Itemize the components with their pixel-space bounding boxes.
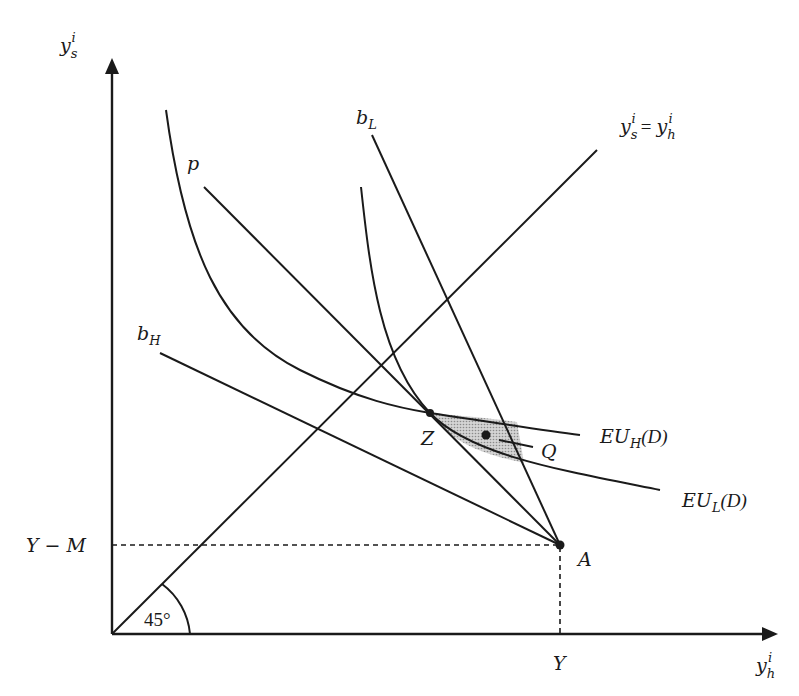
certainty-line [112, 150, 597, 634]
angle-label: 45° [144, 609, 171, 630]
b-L-label: bL [356, 106, 377, 132]
b-H-label: bH [137, 322, 161, 348]
point-Q-label: Q [541, 440, 557, 462]
p-label: p [187, 152, 199, 174]
EU-H-label: EUH(D) [599, 425, 668, 451]
insurance-diagram: ysi yhi ysi=yhi bL bH p EUH(D) EUL(D) A … [0, 0, 799, 696]
EU-L-label: EUL(D) [681, 489, 747, 515]
y-axis-label: ysi [59, 30, 78, 61]
b-L-line [372, 135, 560, 545]
x-axis-arrow-icon [762, 627, 778, 641]
certainty-line-label: ysi=yhi [619, 111, 676, 142]
y-tick-label: Y [553, 652, 568, 674]
point-Z [426, 409, 434, 417]
y-axis-arrow-icon [105, 58, 119, 74]
point-A-label: A [576, 548, 592, 570]
point-Q [482, 431, 491, 440]
x-axis-label: yhi [755, 650, 775, 681]
point-Z-label: Z [420, 427, 435, 449]
point-A [556, 541, 565, 550]
y-minus-m-label: Y − M [26, 534, 87, 556]
